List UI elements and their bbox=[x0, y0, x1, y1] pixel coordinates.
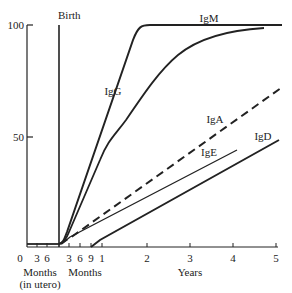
x-tick-6-months: 6 bbox=[77, 252, 83, 264]
immunoglobulin-development-chart: 100 50 0 3 6 3 6 9 1 2 3 4 5 Months (in … bbox=[0, 0, 292, 293]
x-tick-1-year: 1 bbox=[99, 252, 105, 264]
x-label-years: Years bbox=[178, 266, 203, 278]
birth-label: Birth bbox=[58, 9, 81, 21]
series-iga bbox=[61, 88, 281, 244]
x-tick-9-months: 9 bbox=[88, 252, 94, 264]
x-tick-0: 0 bbox=[17, 252, 23, 264]
label-igm: IgM bbox=[200, 12, 219, 24]
series-igd bbox=[91, 140, 279, 247]
label-igd: IgD bbox=[254, 130, 271, 142]
label-iga: IgA bbox=[206, 113, 223, 125]
x-tick-5-year: 5 bbox=[273, 252, 279, 264]
x-tick-3-months: 3 bbox=[66, 252, 72, 264]
label-ige: IgE bbox=[201, 146, 217, 158]
y-axis bbox=[27, 25, 33, 247]
series-ige bbox=[60, 150, 237, 244]
x-tick-2-year: 2 bbox=[144, 252, 150, 264]
x-tick-3-utero: 3 bbox=[34, 252, 40, 264]
y-tick-100: 100 bbox=[8, 19, 25, 31]
x-label-months: Months bbox=[68, 266, 102, 278]
series-igm bbox=[59, 25, 282, 244]
x-label-in-utero: (in utero) bbox=[19, 278, 61, 291]
y-tick-50: 50 bbox=[13, 131, 25, 143]
x-axis bbox=[27, 243, 278, 247]
series-igg bbox=[59, 28, 264, 244]
x-label-months-utero: Months bbox=[23, 266, 57, 278]
label-igg: IgG bbox=[104, 85, 121, 97]
x-tick-6-utero: 6 bbox=[44, 252, 50, 264]
x-tick-3-year: 3 bbox=[187, 252, 193, 264]
x-tick-4-year: 4 bbox=[230, 252, 236, 264]
